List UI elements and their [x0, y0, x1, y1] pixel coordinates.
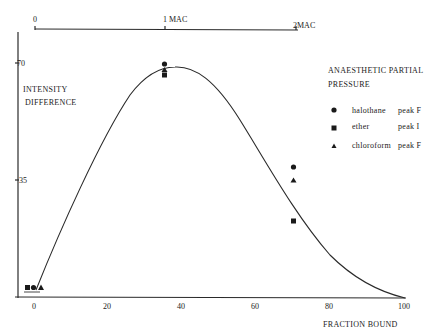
top-axis-title-line2: PRESSURE [328, 80, 370, 89]
triangle-marker [38, 285, 44, 291]
x-axis-title: FRACTION BOUND [323, 320, 398, 329]
circle-marker [162, 61, 167, 66]
chart: 0 1 MAC 2MAC ANAESTHETIC PARTIAL PRESSUR… [0, 0, 443, 334]
data-points-fb-0 [24, 285, 44, 293]
legend-peak: peak F [398, 141, 422, 150]
top-axis-line [35, 29, 298, 30]
top-tick-label-0: 0 [33, 15, 37, 24]
y-tick-label-70: 70 [17, 59, 25, 68]
circle-marker [291, 164, 296, 169]
circle-marker [31, 285, 36, 290]
square-marker [291, 219, 296, 224]
top-axis-title-line1: ANAESTHETIC PARTIAL [328, 66, 423, 75]
square-marker [25, 285, 30, 290]
top-axis: 0 1 MAC 2MAC [33, 15, 315, 30]
legend-item-halothane: halothane peak F [331, 106, 421, 115]
data-points-fb-71 [291, 164, 297, 223]
legend-peak: peak I [398, 122, 420, 131]
square-icon [332, 126, 337, 131]
legend-label: chloroform [352, 141, 391, 150]
circle-icon [331, 107, 336, 112]
x-axis-line [15, 297, 406, 298]
square-marker [162, 73, 167, 78]
legend: halothane peak F ether peak I chloroform… [331, 106, 421, 150]
legend-label: halothane [352, 106, 386, 115]
x-tick-label-100: 100 [398, 302, 410, 311]
legend-peak: peak F [398, 106, 422, 115]
x-tick-label-60: 60 [251, 302, 259, 311]
fitted-curve [36, 67, 405, 298]
legend-item-ether: ether peak I [332, 122, 420, 131]
y-tick-label-35: 35 [19, 176, 27, 185]
legend-item-chloroform: chloroform peak F [332, 141, 422, 150]
x-tick-label-20: 20 [103, 302, 111, 311]
y-axis-title-line2: DIFFERENCE [25, 98, 76, 107]
y-axis: 70 35 [15, 32, 27, 298]
legend-label: ether [352, 122, 370, 131]
triangle-marker [291, 178, 297, 183]
x-tick-label-0: 0 [32, 302, 36, 311]
x-tick-label-80: 80 [325, 302, 333, 311]
top-tick-label-1mac: 1 MAC [163, 15, 187, 24]
x-tick-label-40: 40 [177, 302, 185, 311]
triangle-icon [332, 144, 337, 149]
x-axis: 0 20 40 60 80 100 [15, 297, 410, 311]
y-axis-title-line1: INTENSITY [23, 85, 67, 94]
top-tick-label-2mac: 2MAC [293, 21, 315, 30]
